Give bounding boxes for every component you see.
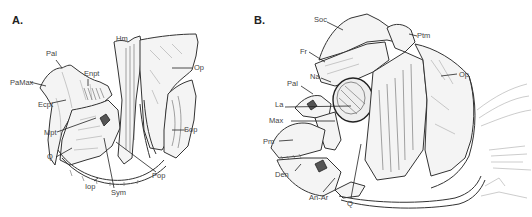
label-op-b: Op: [459, 71, 469, 79]
label-pal-a: Pal: [46, 50, 57, 58]
label-den: Den: [275, 171, 289, 179]
label-q-a: Q: [47, 153, 53, 161]
label-la: La: [275, 101, 283, 109]
label-pamax: PaMax: [10, 79, 33, 87]
label-na: Na: [310, 73, 320, 81]
panel-b-drawing: [255, 0, 532, 217]
label-op-a: Op: [194, 64, 204, 72]
label-an-ar: An-Ar: [309, 194, 328, 202]
label-max: Max: [269, 117, 283, 125]
label-q-b: Q: [347, 200, 353, 208]
label-pm: Pm: [263, 138, 274, 146]
label-mpt: Mpt: [44, 129, 57, 137]
panel-a: A. Pal PaMax Enpt Ecpt Mpt Q Iop Sym Pop…: [0, 0, 260, 217]
label-enpt: Enpt: [84, 70, 99, 78]
label-sym: Sym: [111, 189, 126, 197]
label-ptm: Ptm: [417, 32, 430, 40]
label-pal-b: Pal: [287, 80, 298, 88]
label-fr: Fr: [300, 48, 307, 56]
panel-b-letter: B.: [254, 14, 265, 26]
panel-b: B. Soc Ptm Fr Na Pal La Max Op Pm Den An…: [255, 0, 532, 217]
label-soc: Soc: [314, 16, 327, 24]
label-ecpt: Ecpt: [38, 101, 53, 109]
label-pop: Pop: [152, 172, 165, 180]
label-iop: Iop: [85, 183, 95, 191]
label-sop: Sop: [184, 126, 197, 134]
label-hm: Hm: [116, 35, 128, 43]
panel-a-letter: A.: [12, 14, 23, 26]
